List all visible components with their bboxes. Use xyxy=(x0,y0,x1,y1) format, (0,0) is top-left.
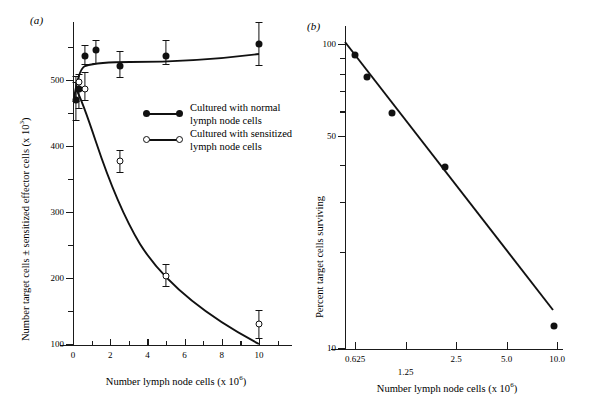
panel-b-x-tick-major xyxy=(355,342,356,350)
panel-b-x-tick-major xyxy=(456,342,457,350)
panel-a-error-cap xyxy=(256,310,263,311)
legend-dot-open-left xyxy=(143,136,150,143)
panel-a-error-cap xyxy=(72,76,79,77)
panel-a-error-cap xyxy=(116,172,123,173)
panel-b-y-tick-major xyxy=(338,136,346,137)
panel-a-x-tick-major xyxy=(147,339,148,346)
legend-symbol-filled xyxy=(140,108,185,120)
panel-a-error-cap xyxy=(116,77,123,78)
panel-a-x-axis-title-text: Number lymph node cells (x 10 xyxy=(106,376,239,387)
legend-dot-filled-left xyxy=(143,110,150,117)
panel-a-point-sensitized xyxy=(81,86,88,93)
panel-a-x-axis-title: Number lymph node cells (x 106) xyxy=(60,374,292,387)
panel-a-y-tick-label: 200 xyxy=(38,274,64,283)
panel-a-y-tick-label: 500 xyxy=(38,76,64,85)
panel-a-y-tick-label: 400 xyxy=(38,142,64,151)
panel-a-y-axis-title-tail: ) xyxy=(20,118,31,122)
panel-a-x-tick-major xyxy=(222,339,223,346)
panel-a-y-axis-title-exponent: 3 xyxy=(18,121,26,125)
legend-dot-filled-right xyxy=(176,110,183,117)
panel-b-y-tick-minor xyxy=(340,202,346,203)
panel-b-y-tick-minor xyxy=(340,91,346,92)
panel-a-y-tick-minor xyxy=(68,179,74,180)
panel-a-error-cap xyxy=(72,101,79,102)
panel-a-point-normal xyxy=(93,47,100,54)
panel-a-y-axis xyxy=(73,22,74,346)
panel-b-x-axis xyxy=(331,349,563,350)
panel-b-fit-line xyxy=(345,42,553,310)
panel-a-y-tick-major xyxy=(66,278,74,279)
legend-label-normal-line2: lymph node cells xyxy=(190,115,280,128)
panel-a-y-axis-title-text: Number target cells ± sensitized effecto… xyxy=(20,125,31,341)
panel-a-error-cap xyxy=(163,264,170,265)
panel-a-y-tick-label: 300 xyxy=(38,208,64,217)
panel-b-y-tick-minor xyxy=(340,165,346,166)
panel-a-error-cap xyxy=(93,40,100,41)
legend-label-sensitized-line1: Cultured with sensitized xyxy=(190,128,292,141)
figure-container: (a) Number target cells ± sensitized eff… xyxy=(0,0,595,414)
panel-b-y-tick-label: 50 xyxy=(310,131,336,140)
panel-b-point xyxy=(442,164,449,171)
legend-symbol-open xyxy=(140,134,185,146)
panel-b-y-tick-label: 100 xyxy=(310,40,336,49)
legend-label-sensitized-line2: lymph node cells xyxy=(190,141,292,154)
panel-a-point-normal xyxy=(163,53,170,60)
panel-a-x-tick-label: 10 xyxy=(255,351,264,360)
panel-b-y-tick-minor xyxy=(340,74,346,75)
panel-a-x-tick-minor xyxy=(203,341,204,346)
panel-a-letter: (a) xyxy=(30,14,43,26)
panel-a-y-tick-major xyxy=(66,212,74,213)
panel-a-error-cap xyxy=(81,72,88,73)
panel-a-error-cap xyxy=(256,22,263,23)
panel-a-y-tick-minor xyxy=(68,245,74,246)
panel-a-error-cap xyxy=(81,45,88,46)
panel-a-x-tick-major xyxy=(73,339,74,346)
panel-a-x-tick-label: 2 xyxy=(108,351,113,360)
panel-a-x-tick-label: 4 xyxy=(145,351,150,360)
panel-b-x-tick-major xyxy=(557,342,558,350)
panel-a-point-normal xyxy=(256,40,263,47)
panel-b-point xyxy=(389,110,396,117)
legend-dot-open-right xyxy=(176,136,183,143)
panel-a: (a) Number target cells ± sensitized eff… xyxy=(0,0,300,414)
panel-a-x-tick-label: 6 xyxy=(182,351,187,360)
panel-b-point xyxy=(364,74,371,81)
panel-a-x-tick-minor xyxy=(166,341,167,346)
panel-a-x-tick-major xyxy=(259,339,260,346)
panel-a-point-sensitized xyxy=(256,321,263,328)
panel-b-letter: (b) xyxy=(307,20,320,32)
panel-a-x-tick-label: 0 xyxy=(71,351,76,360)
panel-a-y-axis-title: Number target cells ± sensitized effecto… xyxy=(18,118,31,341)
panel-a-y-tick-minor xyxy=(68,113,74,114)
panel-a-y-tick-minor xyxy=(68,311,74,312)
panel-b-x-tick-major xyxy=(406,342,407,350)
panel-a-y-tick-major xyxy=(66,146,74,147)
legend-connector xyxy=(146,139,179,141)
legend-label-normal: Cultured with normal lymph node cells xyxy=(190,102,280,127)
panel-b-point xyxy=(352,52,359,59)
panel-a-x-tick-minor xyxy=(278,341,279,346)
panel-b-x-tick-major xyxy=(507,342,508,350)
panel-b-x-tick-label: 1.25 xyxy=(398,368,414,377)
panel-b-x-tick-label: 5.0 xyxy=(501,355,512,364)
panel-a-error-cap xyxy=(81,64,88,65)
panel-b-y-tick-major xyxy=(338,348,346,349)
panel-a-x-tick-minor xyxy=(129,341,130,346)
panel-b-fit-line-svg xyxy=(297,0,595,414)
panel-a-error-cap xyxy=(72,120,79,121)
panel-b-y-tick-label: 10 xyxy=(310,344,336,353)
panel-b-x-axis-title-text: Number lymph node cells (x 10 xyxy=(377,383,510,394)
panel-b-y-tick-major xyxy=(338,44,346,45)
panel-b-x-tick-label: 10.0 xyxy=(549,355,565,364)
panel-a-point-sensitized xyxy=(163,272,170,279)
panel-a-x-tick-label: 8 xyxy=(220,351,225,360)
panel-a-error-cap xyxy=(75,74,82,75)
panel-b-x-tick-label: 0.625 xyxy=(345,355,365,364)
panel-b: (b) Percent target cells surviving 100 5… xyxy=(297,0,595,414)
panel-a-x-tick-major xyxy=(185,339,186,346)
panel-a-error-cap xyxy=(163,64,170,65)
panel-b-y-axis-title: Percent target cells surviving xyxy=(314,196,325,318)
panel-a-y-tick-major xyxy=(66,80,74,81)
panel-a-y-tick-label: 100 xyxy=(38,340,64,349)
panel-a-error-cap xyxy=(163,286,170,287)
